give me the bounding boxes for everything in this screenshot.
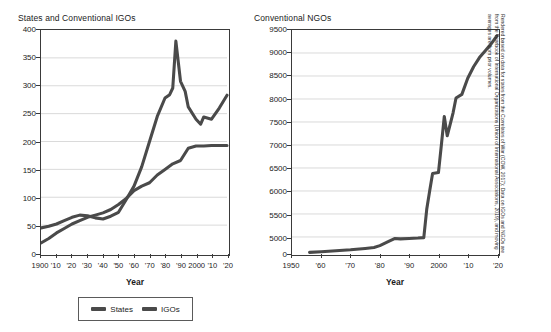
x-tick-label: 1900 — [32, 261, 49, 270]
x-tick-label: '60 — [129, 261, 139, 270]
x-tick-mark — [228, 254, 229, 258]
x-tick-mark — [134, 254, 135, 258]
legend-label-states: States — [110, 305, 133, 314]
chart-title-right: Conventional NGOs — [254, 13, 331, 23]
legend-swatch-states — [91, 307, 106, 310]
x-tick-label: '50 — [113, 261, 123, 270]
x-tick-mark — [350, 254, 351, 258]
x-tick-label: '70 — [145, 261, 155, 270]
x-tick-mark — [212, 254, 213, 258]
y-tick-mark — [287, 215, 291, 216]
chart-panel-states-igos: States and Conventional IGOs 05010015020… — [0, 0, 245, 332]
data-line-igos — [41, 41, 227, 228]
y-tick-mark — [287, 75, 291, 76]
y-tick-mark — [287, 29, 291, 30]
y-tick-label: 400 — [2, 25, 36, 34]
y-tick-mark — [36, 113, 40, 114]
y-tick-mark — [36, 198, 40, 199]
x-tick-label: '80 — [160, 261, 170, 270]
y-tick-mark — [36, 226, 40, 227]
y-tick-mark — [287, 52, 291, 53]
data-lines-left — [41, 41, 227, 243]
y-tick-mark — [36, 85, 40, 86]
x-tick-mark — [150, 254, 151, 258]
y-tick-label: 250 — [2, 109, 36, 118]
source-note: Rendered based on data for states from t… — [466, 14, 506, 256]
y-tick-label: 0 — [253, 250, 287, 259]
y-tick-mark — [287, 191, 291, 192]
y-tick-label: 350 — [2, 53, 36, 62]
x-tick-mark — [87, 254, 88, 258]
y-tick-mark — [287, 99, 291, 100]
x-tick-label: 1950 — [283, 261, 300, 270]
x-tick-mark — [181, 254, 182, 258]
x-tick-label: '30 — [82, 261, 92, 270]
x-tick-mark — [291, 254, 292, 258]
y-tick-mark — [36, 142, 40, 143]
y-tick-label: 100 — [2, 193, 36, 202]
y-tick-label: 0 — [2, 250, 36, 259]
x-tick-mark — [380, 254, 381, 258]
x-axis-label-right: Year — [386, 277, 404, 287]
y-tick-label: 7000 — [253, 141, 287, 150]
chart-legend: States IGOs — [78, 297, 193, 321]
y-tick-label: 9000 — [253, 48, 287, 57]
y-tick-mark — [287, 145, 291, 146]
y-tick-label: 200 — [2, 137, 36, 146]
y-tick-mark — [36, 57, 40, 58]
x-tick-mark — [103, 254, 104, 258]
x-tick-mark — [165, 254, 166, 258]
x-tick-mark — [197, 254, 198, 258]
x-tick-label: 2000 — [188, 261, 205, 270]
legend-item-states: States — [91, 305, 133, 314]
y-tick-label: 150 — [2, 165, 36, 174]
x-tick-label: '10 — [463, 261, 473, 270]
x-tick-label: 2000 — [430, 261, 447, 270]
legend-label-igos: IGOs — [161, 305, 180, 314]
y-tick-label: 6000 — [253, 187, 287, 196]
y-tick-mark — [36, 29, 40, 30]
y-tick-label: 300 — [2, 81, 36, 90]
x-tick-label: '70 — [345, 261, 355, 270]
x-tick-label: '80 — [375, 261, 385, 270]
legend-item-igos: IGOs — [142, 305, 180, 314]
y-tick-label: 50 — [2, 221, 36, 230]
y-tick-label: 9500 — [253, 25, 287, 34]
x-tick-mark — [439, 254, 440, 258]
x-tick-label: '90 — [404, 261, 414, 270]
x-tick-label: '90 — [176, 261, 186, 270]
y-tick-label: 6500 — [253, 164, 287, 173]
plot-area-states-igos — [40, 29, 230, 256]
y-tick-mark — [287, 168, 291, 169]
data-line-states — [41, 145, 227, 243]
y-tick-mark — [287, 238, 291, 239]
x-tick-mark — [409, 254, 410, 258]
x-tick-label: '40 — [98, 261, 108, 270]
x-tick-mark — [71, 254, 72, 258]
y-tick-label: 8000 — [253, 94, 287, 103]
x-tick-mark — [40, 254, 41, 258]
x-tick-label: '60 — [316, 261, 326, 270]
x-tick-mark — [321, 254, 322, 258]
x-tick-label: '10 — [207, 261, 217, 270]
x-tick-mark — [118, 254, 119, 258]
gridlines-left — [41, 58, 227, 225]
x-tick-label: '20 — [223, 261, 233, 270]
x-tick-mark — [56, 254, 57, 258]
y-tick-mark — [36, 170, 40, 171]
y-tick-label: 5500 — [253, 210, 287, 219]
y-tick-mark — [287, 122, 291, 123]
figure-root: States and Conventional IGOs 05010015020… — [0, 0, 551, 332]
x-tick-label: '20 — [493, 261, 503, 270]
plot-svg-left — [41, 30, 229, 255]
y-tick-label: 7500 — [253, 117, 287, 126]
x-tick-label: '20 — [66, 261, 76, 270]
y-tick-label: 5000 — [253, 233, 287, 242]
legend-swatch-igos — [142, 307, 157, 310]
y-tick-label: 8500 — [253, 71, 287, 80]
x-axis-label-left: Year — [126, 277, 144, 287]
x-tick-label: '10 — [51, 261, 61, 270]
chart-title-left: States and Conventional IGOs — [18, 13, 136, 23]
